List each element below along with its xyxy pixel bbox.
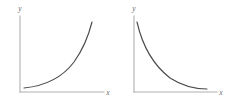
right-y-axis-label: y: [131, 4, 136, 13]
exponential-growth-chart: y x: [17, 4, 110, 97]
figure-panel: y x y x: [0, 0, 228, 106]
left-y-axis-label: y: [17, 4, 22, 13]
exponential-decay-curve: [137, 22, 207, 89]
exponential-figure-svg: y x y x: [0, 0, 228, 106]
exponential-growth-curve: [24, 22, 92, 88]
exponential-decay-chart: y x: [131, 4, 223, 97]
left-x-axis-label: x: [105, 88, 110, 97]
right-x-axis-label: x: [218, 88, 223, 97]
